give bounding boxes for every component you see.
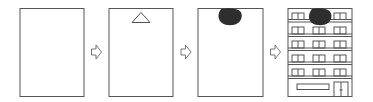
step-1-panel	[20, 9, 84, 97]
hollow-right-arrow-icon	[92, 45, 102, 59]
step-2-panel	[109, 9, 173, 97]
dark-blob-icon	[218, 8, 241, 25]
dark-blob-icon	[309, 8, 331, 25]
step-3-panel	[198, 8, 263, 96]
sequence-diagram	[0, 0, 373, 102]
hollow-right-arrow-icon	[181, 45, 191, 59]
hollow-right-arrow-icon	[271, 45, 281, 59]
